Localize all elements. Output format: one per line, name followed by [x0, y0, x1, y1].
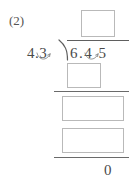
partial-remainder-answer-box[interactable] [62, 96, 124, 121]
subtraction-rule-1 [54, 91, 129, 92]
quotient-answer-box[interactable] [81, 10, 115, 37]
division-bracket-icon [58, 39, 70, 61]
divisor-value: 4.3 [27, 44, 47, 62]
partial-product-answer-box-1[interactable] [67, 63, 101, 88]
subtraction-rule-2 [54, 157, 129, 158]
long-division-worksheet: (2) 4.3 6.4 5 0 [0, 0, 129, 182]
partial-product-answer-box-2[interactable] [62, 128, 124, 153]
problem-number-label: (2) [9, 13, 24, 29]
dividend-value: 6.4 5 [70, 44, 108, 62]
division-vinculum-rule [67, 40, 129, 41]
final-remainder-value: 0 [104, 161, 112, 179]
